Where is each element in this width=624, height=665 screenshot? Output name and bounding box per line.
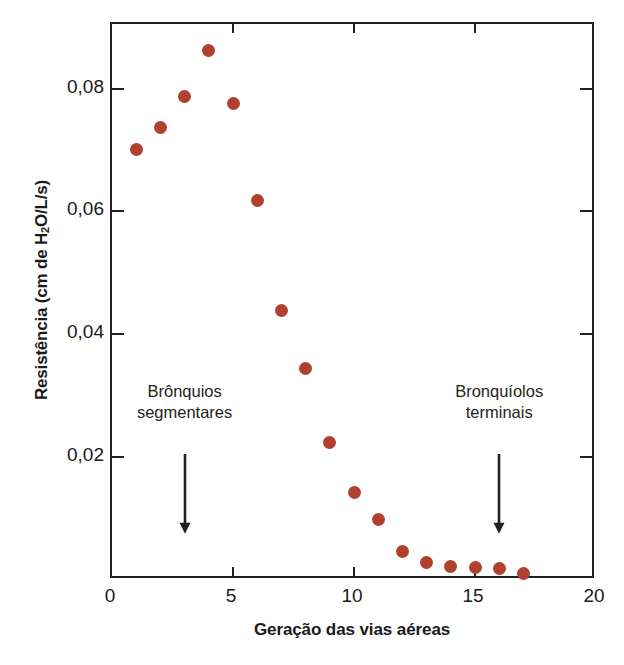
annotation-bronquiolos-terminais: Bronquíolosterminais <box>409 381 589 422</box>
y-axis-tick-right <box>580 88 592 90</box>
annotation-down-arrow-icon <box>176 454 194 536</box>
data-point <box>396 545 409 558</box>
y-axis-tick <box>112 210 124 212</box>
x-tick-label: 15 <box>448 586 498 605</box>
x-axis-tick <box>232 567 234 576</box>
data-point <box>420 556 433 569</box>
data-point <box>251 194 264 207</box>
annotation-line-1: Brônquios <box>95 381 275 402</box>
x-axis-tick-top <box>353 24 355 33</box>
data-point <box>154 121 167 134</box>
data-point <box>227 97 240 110</box>
y-axis-tick <box>112 88 124 90</box>
x-axis-tick-top <box>232 24 234 33</box>
annotation-down-arrow-icon <box>490 454 508 536</box>
y-tick-label: 0,08 <box>44 77 104 96</box>
data-point <box>517 567 530 580</box>
y-tick-label: 0,06 <box>44 199 104 218</box>
x-tick-label: 0 <box>85 586 135 605</box>
plot-area: BrônquiossegmentaresBronquíolosterminais <box>110 22 594 578</box>
data-point <box>275 304 288 317</box>
annotation-bronquios-segmentares: Brônquiossegmentares <box>95 381 275 422</box>
scatter-chart-figure: Resistência (cm de H2O/L/s) 0,08 0,06 0,… <box>0 0 624 665</box>
annotation-line-1: Bronquíolos <box>409 381 589 402</box>
y-axis-tick <box>112 333 124 335</box>
y-axis-tick <box>112 456 124 458</box>
x-axis-tick-labels: 0 5 10 15 20 <box>0 586 624 616</box>
data-point <box>299 362 312 375</box>
data-point <box>130 143 143 156</box>
data-point <box>493 562 506 575</box>
y-tick-label: 0,04 <box>44 322 104 341</box>
data-point <box>444 560 457 573</box>
data-point <box>469 561 482 574</box>
data-point <box>178 90 191 103</box>
y-axis-tick-right <box>580 210 592 212</box>
data-point <box>323 436 336 449</box>
x-axis-title: Geração das vias aéreas <box>110 620 594 640</box>
x-axis-tick-top <box>474 24 476 33</box>
y-axis-tick-right <box>580 456 592 458</box>
x-axis-tick <box>353 567 355 576</box>
x-tick-label: 20 <box>569 586 619 605</box>
x-tick-label: 5 <box>206 586 256 605</box>
annotation-line-2: terminais <box>409 402 589 423</box>
y-tick-label: 0,02 <box>44 445 104 464</box>
data-point <box>202 44 215 57</box>
x-tick-label: 10 <box>327 586 377 605</box>
annotation-line-2: segmentares <box>95 402 275 423</box>
y-axis-tick-right <box>580 333 592 335</box>
y-axis-tick-labels: 0,08 0,06 0,04 0,02 <box>42 0 104 665</box>
data-point <box>372 513 385 526</box>
data-point <box>348 486 361 499</box>
